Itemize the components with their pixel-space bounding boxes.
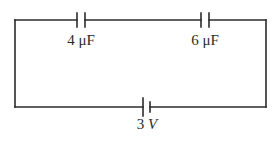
battery-label: 3 V [137, 117, 157, 132]
capacitor-1-value: 4 [67, 32, 75, 48]
circuit-diagram: 4 μF 6 μF 3 V [0, 0, 277, 143]
capacitor-2-label: 6 μF [191, 33, 219, 48]
capacitor-1-unit: μF [78, 32, 94, 48]
capacitor-2-unit: μF [202, 32, 218, 48]
battery-unit: V [148, 116, 157, 132]
battery-value: 3 [137, 116, 145, 132]
capacitor-1-label: 4 μF [67, 33, 95, 48]
capacitor-2-value: 6 [191, 32, 199, 48]
